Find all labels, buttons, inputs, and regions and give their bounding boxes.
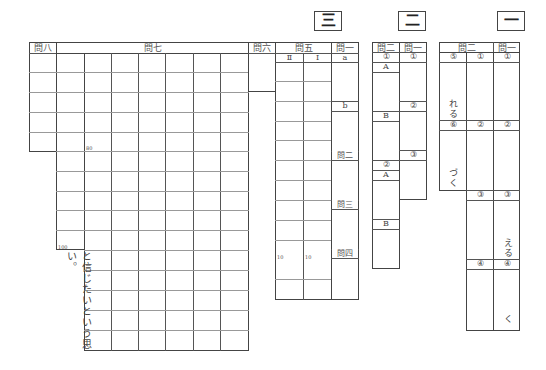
- s1-q2-header: 問二: [440, 43, 493, 52]
- s1-q1-item-2: ②: [494, 120, 520, 130]
- q1-item-b: b: [332, 101, 358, 111]
- s2-q2-item-b1: B: [373, 111, 399, 121]
- s1-q2-item-2: ②: [467, 120, 493, 130]
- s1-q1-4-field[interactable]: [494, 270, 520, 330]
- q4-field[interactable]: [332, 259, 358, 299]
- s1-q2-item-3: ③: [467, 190, 493, 200]
- s2-q2-2a-field[interactable]: [373, 181, 399, 219]
- s1-q2-item-4: ④: [467, 259, 493, 269]
- q5-answer-field-i[interactable]: [304, 63, 331, 299]
- s2-q2-2b-field[interactable]: [373, 230, 399, 268]
- s1-q2-5-field[interactable]: [440, 63, 466, 118]
- s2-q1-item-3: ③: [400, 150, 426, 160]
- s1-q2-item-6: ⑥: [440, 120, 466, 130]
- s2-q1-item-2: ②: [400, 101, 426, 111]
- q7-header: 問七: [57, 43, 248, 53]
- q5-sub-i: Ⅰ: [304, 53, 331, 62]
- s1-q2-4-field[interactable]: [467, 270, 493, 330]
- q2-field[interactable]: [332, 161, 358, 199]
- s2-q2-item-a2: A: [373, 170, 399, 180]
- q7-marker-80: 80: [86, 145, 92, 151]
- s1-q2-item-1: ①: [467, 52, 493, 62]
- q7-suffix-text: と信じたいという思い。: [63, 251, 93, 351]
- q5-answer-field-ii[interactable]: [276, 63, 303, 299]
- q6-answer-field[interactable]: [249, 54, 275, 91]
- s2-q2-1b-field[interactable]: [373, 122, 399, 159]
- q1-item-a: a: [332, 53, 358, 62]
- s1-q2-6-field[interactable]: [440, 131, 466, 190]
- s2-q2-item-b2: B: [373, 219, 399, 229]
- section-three-marker: 三: [314, 11, 342, 31]
- s2-q1-2-field[interactable]: [400, 112, 426, 150]
- s2-q1-1-field[interactable]: [400, 63, 426, 101]
- s2-q2-header: 問二: [373, 43, 399, 52]
- s1-q2-1-field[interactable]: [467, 63, 493, 118]
- s1-q2-3-field[interactable]: [467, 201, 493, 258]
- s2-q2-item-2: ②: [373, 160, 399, 170]
- s2-q2-1a-field[interactable]: [373, 73, 399, 111]
- q3-header: 問三: [332, 200, 358, 209]
- s2-q2-item-a1: A: [373, 62, 399, 72]
- q1-a-field[interactable]: [332, 63, 358, 101]
- s1-q1-3-field[interactable]: [494, 201, 520, 258]
- q2-header: 問二: [332, 151, 358, 160]
- s2-q1-3-field[interactable]: [400, 161, 426, 199]
- s2-q2-item-1: ①: [373, 52, 399, 62]
- q4-header: 問四: [332, 249, 358, 258]
- q1-b-field[interactable]: [332, 112, 358, 150]
- q8-answer-field[interactable]: [29, 54, 57, 152]
- s1-q1-item-3: ③: [494, 190, 520, 200]
- s1-q1-header: 問一: [494, 43, 519, 52]
- s1-q1-item-4: ④: [494, 259, 520, 269]
- q5-sub-ii: Ⅱ: [276, 53, 303, 62]
- q1-header: 問一: [332, 43, 358, 53]
- s1-q1-item-1: ①: [494, 52, 520, 62]
- section-one-marker: 一: [497, 11, 525, 31]
- s2-q1-header: 問一: [400, 43, 426, 52]
- s1-q2-2-field[interactable]: [467, 131, 493, 190]
- q7-grid-main: [84, 53, 249, 351]
- q5-header: 問五: [276, 43, 331, 53]
- s2-q1-item-1: ①: [400, 52, 426, 62]
- q3-field[interactable]: [332, 210, 358, 248]
- s1-q2-item-5: ⑤: [440, 52, 466, 62]
- s1-q1-2-field[interactable]: [494, 131, 520, 190]
- q6-header: 問六: [249, 43, 275, 53]
- s1-q1-1-field[interactable]: [494, 63, 520, 118]
- section-two-marker: 二: [398, 11, 426, 31]
- q7-marker-100: 100: [58, 244, 68, 250]
